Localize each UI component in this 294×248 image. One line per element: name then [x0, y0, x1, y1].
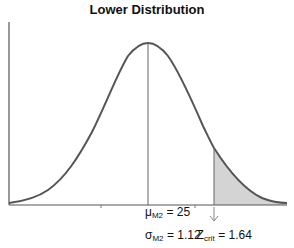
- critical-label: Zcrit = 1.64: [196, 227, 252, 243]
- critical-subscript: crit: [204, 234, 215, 243]
- critical-value: = 1.64: [218, 228, 252, 242]
- mean-symbol: μ: [145, 205, 152, 219]
- sd-label: σM2 = 1.12: [145, 228, 201, 243]
- mean-label: μM2 = 25: [145, 205, 190, 220]
- critical-region-shade: [214, 148, 287, 205]
- critical-symbol: Z: [196, 227, 204, 242]
- mean-value: = 25: [166, 205, 190, 219]
- arrow-down-icon: [210, 207, 218, 221]
- mean-subscript: M2: [152, 211, 163, 220]
- sd-subscript: M2: [152, 234, 163, 243]
